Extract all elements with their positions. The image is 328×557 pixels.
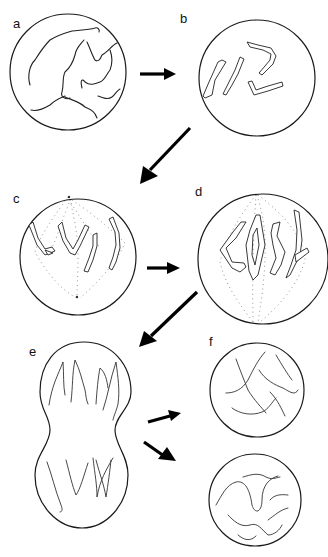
arrow-a-to-b <box>140 68 176 80</box>
panel-label-d: d <box>195 184 202 199</box>
arrow-e-to-f-top <box>148 410 181 422</box>
panel-label-b: b <box>180 11 187 26</box>
panel-b-cell <box>199 20 315 136</box>
diagram-canvas <box>0 0 328 557</box>
arrow-e-to-f-bottom <box>144 442 176 461</box>
arrow-c-to-d <box>147 262 180 274</box>
arrow-b-to-c <box>140 128 190 184</box>
panel-label-a: a <box>13 16 20 31</box>
mitosis-diagram: a b c d e f <box>0 0 328 557</box>
panel-c-cell <box>20 196 136 315</box>
arrow-d-to-e <box>139 292 197 347</box>
panel-d-cell <box>198 194 328 324</box>
panel-e-cell <box>35 342 131 528</box>
panel-label-c: c <box>13 191 20 206</box>
panel-label-e: e <box>29 344 36 359</box>
panel-f-top-cell <box>210 343 304 437</box>
panel-label-f: f <box>209 334 213 349</box>
panel-a-cell <box>10 14 126 130</box>
panel-f-bottom-cell <box>209 454 301 546</box>
